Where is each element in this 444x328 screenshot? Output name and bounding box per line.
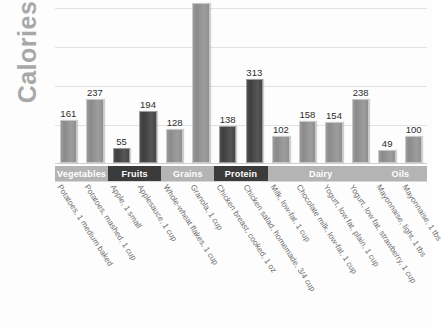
bar-value-label: 161: [60, 108, 76, 119]
bar[interactable]: [246, 79, 264, 163]
bar[interactable]: [139, 111, 157, 163]
bar[interactable]: [378, 150, 396, 163]
bar-value-label: 194: [140, 99, 156, 110]
x-axis-label: Potatoes, mashed, 1 cup: [82, 183, 138, 262]
bar-group: [113, 148, 131, 163]
bar-value-label: 158: [299, 109, 315, 120]
gridline: [55, 47, 427, 48]
bar[interactable]: [60, 120, 78, 163]
category-band-vegetables[interactable]: Vegetables: [55, 166, 108, 181]
bar-value-label: 313: [246, 67, 262, 78]
bar-group: [219, 126, 237, 163]
bar-value-label: 100: [406, 124, 422, 135]
bar-value-label: 128: [167, 117, 183, 128]
category-band-protein[interactable]: Protein: [214, 166, 267, 181]
axis-baseline: [55, 163, 427, 164]
bar[interactable]: [86, 99, 104, 163]
bar-group: [352, 99, 370, 163]
x-axis-item-labels: Potatoes, 1 medium bakedPotatoes, mashed…: [0, 183, 432, 328]
bar-group: [86, 99, 104, 163]
bar-group: [405, 136, 423, 163]
x-axis-label: Mayonnaise, light, 1 tbs: [374, 183, 427, 258]
category-group-band: VegetablesFruitsGrainsProteinDairyOils: [55, 166, 427, 181]
bar[interactable]: [113, 148, 131, 163]
bar[interactable]: [325, 122, 343, 163]
bar[interactable]: [299, 121, 317, 163]
bar[interactable]: [166, 129, 184, 163]
bar[interactable]: [405, 136, 423, 163]
bar-group: [246, 79, 264, 163]
bar-value-label: 102: [273, 124, 289, 135]
gridline: [55, 86, 427, 87]
bar-group: [139, 111, 157, 163]
bar-group: [192, 3, 210, 164]
category-band-dairy[interactable]: Dairy: [268, 166, 374, 181]
bar-group: [378, 150, 396, 163]
bar-value-label: 49: [382, 138, 393, 149]
bar-group: [325, 122, 343, 163]
category-band-oils[interactable]: Oils: [374, 166, 427, 181]
bar-value-label: 138: [220, 114, 236, 125]
bar[interactable]: [219, 126, 237, 163]
plot-area: 1612375519412813831310215815423849100: [55, 0, 427, 164]
bar[interactable]: [192, 3, 210, 164]
y-axis-title: Calories: [13, 0, 41, 112]
gridline: [55, 8, 427, 9]
bar-group: [60, 120, 78, 163]
bar-value-label: 154: [326, 110, 342, 121]
category-band-fruits[interactable]: Fruits: [108, 166, 161, 181]
bar-value-label: 238: [353, 87, 369, 98]
category-band-grains[interactable]: Grains: [161, 166, 214, 181]
gridline: [55, 125, 427, 126]
bar[interactable]: [272, 136, 290, 163]
bar-value-label: 237: [87, 87, 103, 98]
bar-group: [299, 121, 317, 163]
bar[interactable]: [352, 99, 370, 163]
bar-group: [166, 129, 184, 163]
plot-bottom-rule: [55, 181, 427, 182]
bar-group: [272, 136, 290, 163]
bar-value-label: 55: [116, 136, 127, 147]
